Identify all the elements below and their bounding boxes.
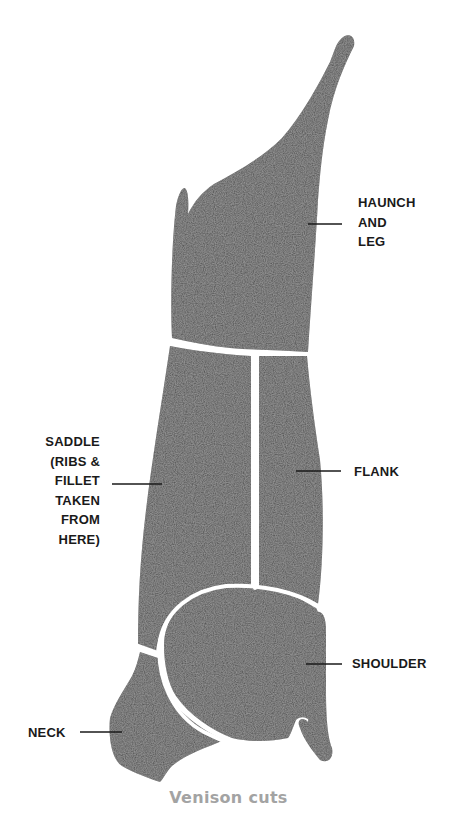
flank-region [259, 356, 323, 604]
label-line: AND [358, 213, 416, 233]
label-line: HERE) [10, 530, 100, 550]
label-line: TAKEN [10, 491, 100, 511]
label-line: (RIBS & [10, 452, 100, 472]
haunch-region [171, 35, 354, 352]
label-line: SHOULDER [352, 654, 427, 674]
diagram-caption: Venison cuts [0, 788, 457, 807]
label-line: FLANK [354, 462, 399, 482]
label-haunch-and-leg: HAUNCH AND LEG [358, 193, 416, 252]
venison-carcass-diagram [0, 0, 457, 829]
label-line: LEG [358, 232, 416, 252]
label-saddle: SADDLE (RIBS & FILLET TAKEN FROM HERE) [10, 432, 100, 549]
label-line: FILLET [10, 471, 100, 491]
label-shoulder: SHOULDER [352, 654, 427, 674]
label-flank: FLANK [354, 462, 399, 482]
label-line: FROM [10, 510, 100, 530]
label-line: SADDLE [10, 432, 100, 452]
label-neck: NECK [28, 723, 66, 743]
label-line: NECK [28, 723, 66, 743]
label-line: HAUNCH [358, 193, 416, 213]
